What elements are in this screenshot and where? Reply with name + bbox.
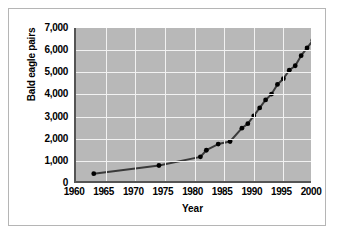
data-point-marker xyxy=(275,82,280,87)
gridline-vertical xyxy=(165,28,166,181)
y-axis-tick-label: 1,000 xyxy=(21,156,68,166)
y-axis-tick-label: 3,000 xyxy=(21,112,68,122)
gridline-vertical xyxy=(135,28,136,181)
y-axis-tick-label: 2,000 xyxy=(21,134,68,144)
gridline-horizontal xyxy=(76,94,311,95)
figure-frame: Bald eagle pairs 01,0002,0003,0004,0005,… xyxy=(8,8,326,226)
figure-root: Bald eagle pairs 01,0002,0003,0004,0005,… xyxy=(0,0,341,241)
y-axis-tick-labels: 01,0002,0003,0004,0005,0006,0007,000 xyxy=(21,28,68,191)
gridline-vertical xyxy=(283,28,284,181)
gridline-horizontal xyxy=(76,117,311,118)
gridline-horizontal xyxy=(76,139,311,140)
data-point-marker xyxy=(263,98,268,103)
gridline-vertical xyxy=(195,28,196,181)
y-axis-tick-label: 6,000 xyxy=(21,45,68,55)
gridline-vertical xyxy=(106,28,107,181)
data-point-marker xyxy=(204,148,209,153)
y-axis-tick-label: 4,000 xyxy=(21,89,68,99)
gridline-vertical xyxy=(254,28,255,181)
gridline-horizontal xyxy=(76,72,311,73)
data-point-marker xyxy=(240,126,245,131)
data-point-marker xyxy=(299,53,304,58)
y-axis-tick-label: 5,000 xyxy=(21,67,68,77)
data-point-marker xyxy=(257,106,262,111)
data-point-marker xyxy=(245,121,250,126)
gridline-vertical xyxy=(224,28,225,181)
line-series xyxy=(76,28,311,183)
x-axis-title: Year xyxy=(74,203,311,214)
data-point-marker xyxy=(91,171,96,176)
y-axis-tick-label: 7,000 xyxy=(21,23,68,33)
x-axis-tick-label: 2000 xyxy=(294,186,328,197)
gridline-horizontal xyxy=(76,161,311,162)
data-point-marker xyxy=(157,163,162,168)
gridline-horizontal xyxy=(76,50,311,51)
data-point-marker xyxy=(198,154,203,159)
data-point-marker xyxy=(216,142,221,147)
x-axis-tick-labels: 196019651970197519801985199019952000 xyxy=(69,186,319,200)
series-line xyxy=(94,40,311,174)
plot-area xyxy=(74,28,311,183)
data-point-marker xyxy=(293,63,298,68)
